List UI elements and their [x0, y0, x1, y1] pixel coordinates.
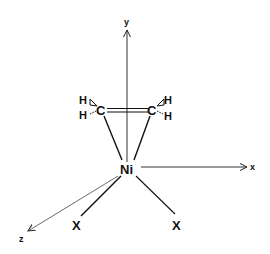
- hash-bond-right-icon: [157, 111, 163, 114]
- x-axis: x: [141, 162, 255, 172]
- carbon-right-label: C: [147, 103, 157, 118]
- ligand-x-left-label: X: [72, 218, 81, 233]
- z-axis: z: [19, 176, 118, 244]
- ni-x-bond-left: [81, 176, 121, 216]
- ni-c-bond-right: [134, 116, 150, 160]
- h-left-top-label: H: [79, 94, 87, 106]
- y-axis: y: [124, 17, 129, 162]
- wedge-bond-right-icon: [157, 99, 164, 106]
- ni-c-bond-left: [104, 116, 122, 160]
- nickel-label: Ni: [120, 162, 133, 177]
- x-axis-label: x: [250, 162, 255, 172]
- ligand-x-right-label: X: [172, 218, 181, 233]
- ni-x-bond-right: [136, 176, 175, 214]
- carbon-left-label: C: [96, 103, 106, 118]
- z-axis-label: z: [19, 234, 24, 244]
- h-right-top-label: H: [164, 94, 172, 106]
- y-axis-label: y: [124, 17, 129, 27]
- ni-ethylene-coordinate-diagram: y x z C H H C H H: [0, 0, 270, 254]
- h-right-bottom-label: H: [164, 110, 172, 122]
- h-left-bottom-label: H: [79, 109, 87, 121]
